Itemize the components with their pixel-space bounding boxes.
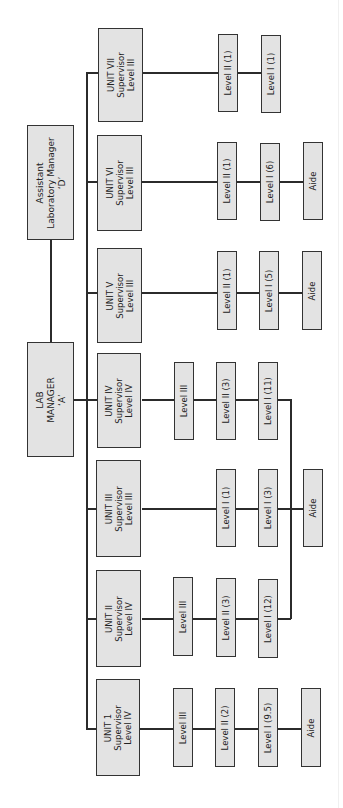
staff-label: Aide <box>308 172 318 191</box>
shared-aide-connector <box>290 399 292 619</box>
staff-label: Level III <box>178 711 188 744</box>
staff-label: Level I (11) <box>263 377 273 425</box>
staff-label: Aide <box>308 499 318 518</box>
label-line: LAB <box>34 377 45 423</box>
label-line: ‘D’ <box>56 137 67 228</box>
staff-label: Level III <box>178 600 188 633</box>
staff-label: Aide <box>306 718 316 737</box>
label-line: Level III <box>124 486 134 531</box>
label-line: Supervisor <box>114 486 124 531</box>
unit-iii-label: UNIT III Supervisor Level III <box>104 486 134 531</box>
unit-vii-supervisor-box: UNIT VII Supervisor Level III <box>98 28 143 122</box>
label-line: Level IV <box>124 596 134 641</box>
staff-box: Level I (6) <box>260 143 280 221</box>
staff-label: Level I (1) <box>266 53 276 95</box>
staff-box: Level I (12) <box>258 579 278 658</box>
unit-v-supervisor-box: UNIT V Supervisor Level III <box>97 248 142 343</box>
label-line: Laboratory Manager <box>45 137 56 228</box>
lab-manager-label: LAB MANAGER ‘A’ <box>34 377 67 423</box>
assistant-lab-manager-box: Assistant Laboratory Manager ‘D’ <box>27 125 74 240</box>
staff-label: Level I (5) <box>264 269 274 311</box>
staff-box: Level II (1) <box>217 251 237 330</box>
org-spine <box>86 72 88 729</box>
staff-label: Aide <box>307 281 317 300</box>
staff-box: Level II (1) <box>217 142 237 220</box>
staff-box: Level I (11) <box>258 362 278 440</box>
staff-box: Aide <box>302 251 322 330</box>
label-line: Supervisor <box>116 52 126 97</box>
staff-label: Level II (1) <box>222 268 232 313</box>
assistant-lab-manager-label: Assistant Laboratory Manager ‘D’ <box>34 137 67 228</box>
label-line: UNIT VII <box>106 52 116 97</box>
staff-label: Level II (3) <box>221 595 231 640</box>
lab-manager-box: LAB MANAGER ‘A’ <box>27 342 74 457</box>
label-line: UNIT V <box>105 273 115 318</box>
unit-1-supervisor-box: UNIT 1 Supervisor Level IV <box>96 679 140 776</box>
staff-label: Level II (1) <box>223 51 233 96</box>
label-line: Level IV <box>123 705 133 750</box>
label-line: Supervisor <box>114 378 124 423</box>
staff-label: Level I (12) <box>263 595 273 643</box>
staff-box: Level I (1) <box>216 469 236 547</box>
label-line: UNIT II <box>104 596 114 641</box>
label-line: Level III <box>126 52 136 97</box>
label-line: UNIT III <box>104 486 114 531</box>
label-line: Level III <box>125 160 135 205</box>
staff-box: Level II (3) <box>216 362 236 440</box>
label-line: Supervisor <box>115 273 125 318</box>
label-line: ‘A’ <box>56 377 67 423</box>
unit-iii-supervisor-box: UNIT III Supervisor Level III <box>96 460 141 557</box>
unit-vii-label: UNIT VII Supervisor Level III <box>106 52 136 97</box>
label-line: Supervisor <box>115 160 125 205</box>
label-line: UNIT IV <box>104 378 114 423</box>
label-line: UNIT 1 <box>103 705 113 750</box>
staff-box: Level II (3) <box>216 578 236 657</box>
unit-ii-supervisor-box: UNIT II Supervisor Level IV <box>96 570 141 667</box>
staff-label: Level III <box>179 385 189 418</box>
label-line: MANAGER <box>45 377 56 423</box>
unit-iv-supervisor-box: UNIT IV Supervisor Level IV <box>97 353 141 448</box>
staff-box: Level III <box>173 688 193 767</box>
staff-box: Level II (2) <box>215 688 235 767</box>
unit-iv-label: UNIT IV Supervisor Level IV <box>104 378 134 423</box>
label-line: Level IV <box>124 378 134 423</box>
unit-ii-label: UNIT II Supervisor Level IV <box>104 596 134 641</box>
staff-label: Level II (1) <box>222 159 232 204</box>
staff-box: Level II (1) <box>218 34 238 112</box>
connector-assistant-to-manager <box>50 240 52 342</box>
staff-label: Level II (3) <box>221 379 231 424</box>
label-line: Assistant <box>34 137 45 228</box>
staff-label: Level I (6) <box>265 161 275 203</box>
label-line: UNIT VI <box>105 160 115 205</box>
unit-v-label: UNIT V Supervisor Level III <box>105 273 135 318</box>
staff-label: Level II (2) <box>220 705 230 750</box>
staff-box: Level III <box>174 362 194 440</box>
staff-box: Aide <box>303 142 323 220</box>
staff-label: Level I (1) <box>221 487 231 529</box>
unit-1-label: UNIT 1 Supervisor Level IV <box>103 705 133 750</box>
staff-box: Level I (9.5) <box>258 688 278 767</box>
branch-unit-vii <box>86 72 98 74</box>
staff-box: Level I (3) <box>258 469 278 547</box>
staff-label: Level I (9.5) <box>263 702 273 753</box>
label-line: Level III <box>125 273 135 318</box>
staff-box: Level III <box>173 577 193 656</box>
page-edge <box>338 0 339 808</box>
staff-box: Level I (1) <box>261 35 281 113</box>
unit-vi-label: UNIT VI Supervisor Level III <box>105 160 135 205</box>
unit-vi-supervisor-box: UNIT VI Supervisor Level III <box>97 135 142 231</box>
shared-aide-box: Aide <box>303 469 323 547</box>
staff-label: Level I (3) <box>263 487 273 529</box>
label-line: Supervisor <box>113 705 123 750</box>
row-line-unit-vii <box>142 72 262 74</box>
staff-box: Level I (5) <box>259 251 279 330</box>
label-line: Supervisor <box>114 596 124 641</box>
staff-box: Aide <box>301 688 321 767</box>
